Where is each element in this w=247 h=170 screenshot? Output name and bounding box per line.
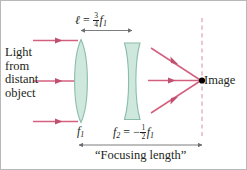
lens2-focal-label: f2 = − 1 2 f1 xyxy=(113,124,154,141)
separation-numerator: 3 xyxy=(93,12,99,20)
outgoing-ray-middle-arrow xyxy=(168,77,176,83)
lens1-focal-label: f1 xyxy=(77,124,84,139)
light-source-line-1: Light xyxy=(5,46,38,60)
outgoing-ray-bottom-arrow xyxy=(170,97,178,105)
diverging-lens xyxy=(125,43,141,120)
image-label: Image xyxy=(204,73,235,87)
converging-lens xyxy=(75,40,88,123)
lens2-focal-numerator: 1 xyxy=(140,124,146,132)
separation-denominator: 4 xyxy=(93,20,99,29)
lens2-focal-subscript: 2 xyxy=(116,131,120,140)
incoming-ray-bottom-arrow xyxy=(55,118,63,124)
separation-equation-label: ℓ = 3 4 f1 xyxy=(75,12,107,29)
light-source-line-3: distant xyxy=(5,73,38,87)
incoming-ray-top-arrow xyxy=(55,37,63,43)
lens2-focal-fraction: 1 2 xyxy=(140,124,146,141)
outgoing-ray-bottom xyxy=(151,81,201,114)
focusing-length-label: “Focusing length” xyxy=(95,148,186,162)
lens2-focal-denominator: 2 xyxy=(140,132,146,141)
outgoing-ray-top-arrow xyxy=(170,57,178,65)
incoming-ray-middle-arrow xyxy=(55,78,63,84)
light-source-label: Light from distant object xyxy=(5,46,38,100)
lens1-focal-subscript: 1 xyxy=(80,130,84,139)
outgoing-ray-group xyxy=(148,48,201,113)
lens2-focal-sign: − xyxy=(133,125,140,139)
outgoing-ray-top xyxy=(151,48,201,81)
lens2-focal-subscript2: 1 xyxy=(150,131,154,140)
separation-subscript: 1 xyxy=(103,19,107,28)
optics-diagram-figure: Light from distant object Image “Focusin… xyxy=(0,0,247,170)
incoming-ray-group xyxy=(33,37,78,124)
separation-symbol: ℓ xyxy=(75,13,80,27)
separation-fraction: 3 4 xyxy=(93,12,99,29)
lens2-focal-equals: = xyxy=(123,125,130,139)
separation-equals: = xyxy=(83,13,90,27)
light-source-line-4: object xyxy=(5,87,38,101)
light-source-line-2: from xyxy=(5,60,38,74)
